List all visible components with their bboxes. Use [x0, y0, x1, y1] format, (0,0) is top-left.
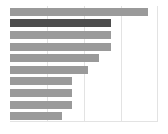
bar-1[interactable] — [10, 8, 148, 16]
bar-series — [10, 6, 158, 122]
bar-chart — [0, 0, 168, 134]
bar-9[interactable] — [10, 101, 72, 109]
plot-area — [10, 6, 158, 122]
bar-7[interactable] — [10, 77, 72, 85]
bar-3[interactable] — [10, 31, 111, 39]
bar-6[interactable] — [10, 66, 88, 74]
bar-4[interactable] — [10, 43, 111, 51]
bar-10[interactable] — [10, 112, 62, 120]
bar-5[interactable] — [10, 54, 99, 62]
bar-8[interactable] — [10, 89, 72, 97]
bar-2[interactable] — [10, 19, 111, 27]
